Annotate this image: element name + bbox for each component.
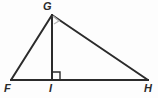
vertex-label-g: G [43, 1, 52, 12]
vertex-label-f: F [4, 83, 11, 94]
vertex-label-i: I [49, 83, 52, 94]
right-angle-marker-at-i [52, 72, 60, 80]
vertex-label-h: H [144, 83, 152, 94]
segment-gh [52, 15, 148, 80]
triangle-diagram-svg [0, 0, 158, 98]
segment-fg [11, 15, 52, 80]
geometry-figure: G F I H [0, 0, 158, 98]
